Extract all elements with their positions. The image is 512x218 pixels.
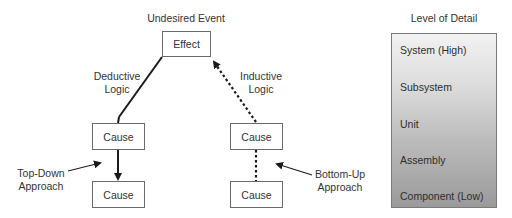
inductive-label-line-2: Logic	[230, 83, 292, 96]
cause-box-right-lower: Cause	[230, 181, 283, 208]
undesired-event-label: Undesired Event	[140, 12, 232, 25]
level-unit: Unit	[400, 118, 419, 130]
bottom-up-pointer-arrow	[277, 164, 312, 175]
inductive-label-line-1: Inductive	[230, 70, 292, 83]
deductive-logic-label: Deductive Logic	[86, 70, 148, 96]
level-component: Component (Low)	[400, 190, 483, 202]
deductive-label-line-1: Deductive	[86, 70, 148, 83]
top-down-label-line-1: Top-Down	[12, 167, 70, 180]
inductive-logic-label: Inductive Logic	[230, 70, 292, 96]
bottom-up-label-line-2: Approach	[308, 181, 372, 194]
effect-box: Effect	[162, 31, 211, 57]
cause-box-right-upper: Cause	[230, 123, 283, 150]
level-of-detail-gradient-box: System (High) Subsystem Unit Assembly Co…	[391, 33, 497, 208]
top-down-pointer-arrow	[68, 163, 100, 171]
top-down-approach-label: Top-Down Approach	[12, 167, 70, 193]
bottom-up-approach-label: Bottom-Up Approach	[308, 168, 372, 194]
cause-box-left-lower: Cause	[92, 181, 145, 208]
level-assembly: Assembly	[400, 154, 446, 166]
top-down-label-line-2: Approach	[12, 180, 70, 193]
cause-box-left-upper: Cause	[92, 123, 145, 150]
level-subsystem: Subsystem	[400, 81, 452, 93]
bottom-up-label-line-1: Bottom-Up	[308, 168, 372, 181]
deductive-label-line-2: Logic	[86, 83, 148, 96]
level-system: System (High)	[400, 44, 467, 56]
level-of-detail-title: Level of Detail	[404, 12, 484, 25]
